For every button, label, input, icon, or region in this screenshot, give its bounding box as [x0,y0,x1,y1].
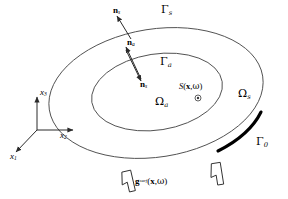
inner-boundary-label: Γa [160,56,172,69]
loaded-boundary-arc [218,112,261,151]
inner-ellipse-boundary [86,44,228,140]
domain-schematic-figure: ns Γs na Γa ns S(x,ω) Ωa Ωs Γ0 gsurf(x,ω… [0,0,288,199]
source-point-marker [195,95,201,101]
surface-load-label: gsurf(x,ω) [135,177,167,186]
coordinate-axes [16,97,73,152]
surface-load-arrow-left [119,170,135,193]
interface-normal-s-label: ns [140,80,147,90]
outer-normal-label: ns [113,6,120,16]
interface-normal-a-label: na [127,38,135,48]
outer-domain-label: Ωs [238,88,251,101]
source-label: S(x,ω) [179,82,202,91]
axis-x1-line [16,130,37,152]
inner-domain-label: Ωa [155,96,168,109]
interface-normal-a-arrow [126,47,141,79]
surface-load-arrow-right [209,162,224,186]
outer-boundary-label: Γs [161,4,172,17]
axis-x2-label: x2 [60,131,67,141]
loaded-boundary-label: Γ0 [256,136,268,149]
outer-normal-arrow [117,16,131,39]
axis-x1-label: x1 [10,152,17,162]
axis-x3-label: x3 [40,88,47,98]
interface-normal-s-arrow [126,50,141,81]
